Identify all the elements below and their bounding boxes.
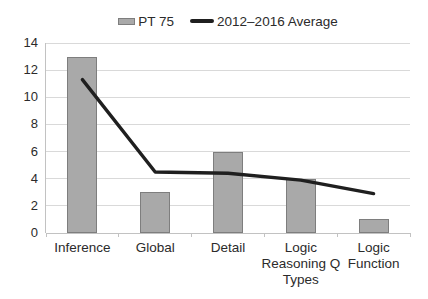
y-tick-label: 12 <box>12 62 38 78</box>
average-line <box>82 80 373 194</box>
plot-area: 02468101214InferenceGlobalDetailLogic Re… <box>46 43 410 233</box>
y-tick-label: 0 <box>12 225 38 241</box>
x-axis-tick <box>118 233 119 237</box>
y-tick-label: 14 <box>12 35 38 51</box>
y-tick-label: 10 <box>12 89 38 105</box>
x-axis-tick <box>337 233 338 237</box>
x-axis-tick <box>410 233 411 237</box>
x-cat-label: Logic Function <box>331 240 417 272</box>
x-axis-tick <box>264 233 265 237</box>
chart-legend: PT 75 2012–2016 Average <box>46 12 410 30</box>
line-swatch-icon <box>190 19 214 23</box>
bar-swatch-icon <box>118 18 135 25</box>
y-tick-label: 2 <box>12 198 38 214</box>
y-tick-label: 8 <box>12 116 38 132</box>
x-axis-tick <box>191 233 192 237</box>
y-tick-label: 4 <box>12 171 38 187</box>
legend-item-average: 2012–2016 Average <box>190 14 338 29</box>
legend-label-average: 2012–2016 Average <box>217 14 338 29</box>
x-axis-tick <box>46 233 47 237</box>
average-line-svg <box>46 43 410 233</box>
y-tick-label: 6 <box>12 144 38 160</box>
legend-item-pt75: PT 75 <box>118 14 174 29</box>
legend-label-pt75: PT 75 <box>138 14 174 29</box>
rc-question-types-chart: PT 75 2012–2016 Average 02468101214Infer… <box>0 0 428 299</box>
